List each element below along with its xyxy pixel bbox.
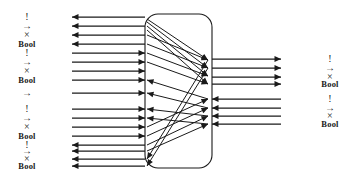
left-wire-arrowhead-5 <box>139 59 146 65</box>
left-wire-arrowhead-0 <box>72 14 79 20</box>
internal-wire-arrowhead-10 <box>147 107 154 113</box>
left-wire-arrowhead-16 <box>72 163 79 169</box>
right-wire-arrowhead-4 <box>212 96 219 102</box>
left-wire-arrowhead-8 <box>139 90 146 96</box>
left-wire-arrowhead-10 <box>139 115 146 121</box>
signal-flow-diagram: !→×Bool!→×Bool→!→×Bool!→×Bool!→×Bool!→×B… <box>0 0 357 181</box>
right-wire-arrowhead-6 <box>212 113 219 119</box>
right-wire-arrowhead-1 <box>275 65 282 71</box>
internal-wire-15 <box>147 124 208 151</box>
left-wire-arrowhead-11 <box>139 124 146 130</box>
internal-wire-arrowhead-9 <box>147 92 154 98</box>
left-wire-arrowhead-9 <box>139 106 146 112</box>
right-port-label-7: Bool <box>321 120 338 129</box>
left-wire-arrowhead-14 <box>72 148 79 154</box>
left-wire-arrowhead-15 <box>72 156 79 162</box>
internal-wire-14 <box>147 116 208 145</box>
internal-wire-0 <box>147 19 208 60</box>
right-wire-arrowhead-2 <box>275 74 282 80</box>
left-wire-arrowhead-6 <box>139 68 146 74</box>
internal-wire-arrowhead-11 <box>147 116 154 122</box>
left-port-label-8: → <box>22 88 32 98</box>
internal-wire-16 <box>147 60 208 159</box>
left-wire-arrowhead-4 <box>139 50 146 56</box>
internal-wire-3 <box>147 30 208 84</box>
left-port-label-7: Bool <box>18 76 35 85</box>
internal-wire-arrowhead-8 <box>147 79 154 85</box>
left-port-label-16: Bool <box>18 162 35 171</box>
left-wire-arrowhead-7 <box>139 77 146 83</box>
internal-wire-1 <box>147 22 208 68</box>
left-wire-arrowhead-1 <box>72 23 79 29</box>
left-wire-arrowhead-13 <box>72 142 79 148</box>
internal-wire-9 <box>147 93 208 108</box>
left-wire-arrowhead-2 <box>72 32 79 38</box>
right-wire-arrowhead-7 <box>212 121 219 127</box>
right-wire-arrowhead-5 <box>212 105 219 111</box>
left-wire-arrowhead-3 <box>72 41 79 47</box>
internal-wire-2 <box>147 26 208 76</box>
right-port-label-3: Bool <box>321 80 338 89</box>
wire-layer <box>0 0 357 181</box>
left-wire-arrowhead-12 <box>139 133 146 139</box>
right-wire-arrowhead-3 <box>275 81 282 87</box>
right-wire-arrowhead-0 <box>275 56 282 62</box>
